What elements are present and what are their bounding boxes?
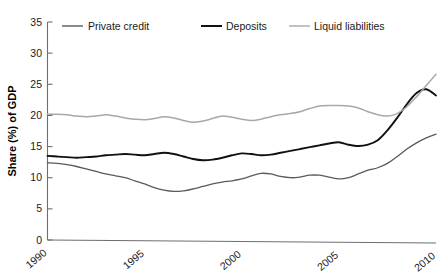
y-axis-tick-labels: 05101520253035 [30, 16, 42, 246]
y-tick-label: 10 [30, 171, 42, 183]
series-line-private-credit [48, 134, 437, 191]
x-tick-label: 1990 [23, 246, 49, 270]
axis-lines [48, 22, 437, 243]
chart-legend: Private creditDepositsLiquid liabilities [62, 20, 385, 32]
y-axis-ticks [48, 22, 53, 240]
y-axis-label-text: Share (%) of GDP [6, 85, 18, 176]
y-tick-label: 35 [30, 16, 42, 28]
y-tick-label: 20 [30, 109, 42, 121]
y-axis-label: Share (%) of GDP [6, 85, 18, 176]
y-tick-label: 30 [30, 47, 42, 59]
legend-label-deposits: Deposits [226, 20, 267, 32]
legend-label-private-credit: Private credit [88, 20, 149, 32]
x-tick-label: 2005 [315, 248, 341, 272]
legend-label-liquid-liabilities: Liquid liabilities [314, 20, 385, 32]
x-tick-label: 2010 [412, 249, 438, 273]
x-axis-tick-labels: 19901995200020052010 [23, 246, 437, 273]
x-axis-line [48, 240, 437, 243]
chart-figure: Share (%) of GDP 05101520253035 19901995… [0, 0, 448, 278]
series-line-liquid-liabilities [48, 74, 437, 122]
y-tick-label: 5 [36, 202, 42, 214]
x-tick-label: 2000 [217, 248, 243, 272]
y-tick-label: 0 [36, 234, 42, 246]
series-line-deposits [48, 89, 437, 160]
series-lines [48, 74, 437, 191]
line-chart: Share (%) of GDP 05101520253035 19901995… [0, 0, 448, 278]
y-tick-label: 15 [30, 140, 42, 152]
x-tick-label: 1995 [120, 247, 146, 271]
y-tick-label: 25 [30, 78, 42, 90]
